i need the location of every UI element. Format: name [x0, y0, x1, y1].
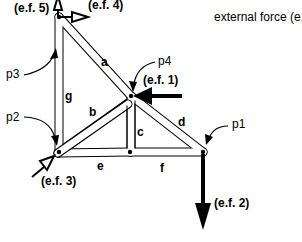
bar-e: [58, 152, 130, 153]
joint-c-bottom: [128, 150, 132, 154]
bar-label-d: d: [178, 115, 185, 129]
point-label-p4: p4: [158, 54, 172, 68]
force-label-ef1: (e.f. 1): [143, 73, 178, 87]
joint-p1: [201, 150, 205, 154]
hollow-arrow-right-icon: [72, 12, 88, 22]
force-ef3: (e.f. 3): [32, 156, 76, 188]
p2-pointer: [24, 117, 55, 138]
hollow-arrow-up-icon: [54, 0, 62, 10]
force-label-ef5: (e.f. 5): [14, 1, 49, 15]
joint-p4: [129, 94, 133, 98]
bar-label-g: g: [65, 89, 72, 103]
bar-label-f: f: [160, 161, 165, 175]
p1-pointer-head-icon: [205, 134, 213, 145]
force-label-ef2: (e.f. 2): [214, 196, 249, 210]
truss-diagram: external force (e.f.): [0, 0, 302, 242]
legend-text: external force (e.f.): [214, 10, 302, 24]
bar-label-e: e: [97, 159, 104, 173]
force-ef4: (e.f. 4): [60, 0, 123, 22]
p3-pointer: [24, 54, 54, 75]
point-label-p3: p3: [6, 67, 20, 81]
bar-label-a: a: [101, 55, 108, 69]
joint-p2: [57, 150, 61, 154]
point-label-p1: p1: [232, 117, 246, 131]
p1-pointer: [209, 126, 228, 138]
force-label-ef3: (e.f. 3): [41, 174, 76, 188]
force-ef2: (e.f. 2): [195, 154, 249, 230]
point-label-p2: p2: [6, 110, 20, 124]
bar-d: [131, 96, 203, 152]
solid-arrow-down-icon: [195, 203, 211, 230]
bar-label-c: c: [137, 125, 144, 139]
force-ef5: (e.f. 5): [14, 0, 62, 16]
bar-a: [59, 17, 131, 96]
force-label-ef4: (e.f. 4): [88, 0, 123, 12]
bar-label-b: b: [89, 105, 96, 119]
